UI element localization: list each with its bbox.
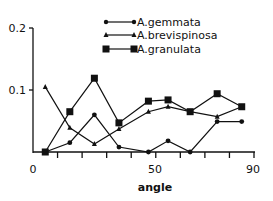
circle-marker-icon (104, 20, 108, 24)
circle-marker-icon (215, 119, 220, 124)
legend-label: A.gemmata (137, 16, 201, 29)
square-marker-icon (115, 119, 122, 126)
x-tick-label-90: 90 (246, 163, 260, 176)
circle-marker-icon (67, 140, 72, 145)
square-marker-icon (238, 103, 245, 110)
y-axis (29, 28, 33, 153)
square-marker-icon (91, 75, 98, 82)
x-tick-label-50: 50 (148, 163, 162, 176)
circle-marker-icon (188, 150, 193, 155)
x-tick-label-0: 0 (30, 163, 37, 176)
series-layer (42, 75, 245, 156)
triangle-marker-icon (166, 104, 171, 109)
legend-item-gemmata: A.gemmata (104, 16, 201, 29)
x-axis (33, 152, 255, 158)
square-marker-icon (66, 108, 73, 115)
series-a-gemmata (43, 112, 244, 154)
square-marker-icon (165, 96, 172, 103)
y-tick-label-0.1: 0.1 (9, 84, 27, 97)
square-marker-icon (145, 98, 152, 105)
circle-marker-icon (146, 150, 151, 155)
square-marker-icon (103, 46, 110, 53)
legend-item-brevispinosa: A.brevispinosa (104, 29, 218, 42)
legend: A.gemmata A.brevispinosa A.granulata (103, 16, 218, 56)
circle-marker-icon (132, 20, 136, 24)
square-marker-icon (42, 149, 49, 156)
x-axis-label: angle (138, 181, 172, 194)
line-chart: 0.2 0.1 0 50 90 angle A.gemmata A.brevis… (0, 0, 273, 201)
chart-svg: 0.2 0.1 0 50 90 angle A.gemmata A.brevis… (0, 0, 273, 201)
circle-marker-icon (117, 145, 122, 150)
legend-item-granulata: A.granulata (103, 43, 201, 56)
circle-marker-icon (166, 138, 171, 143)
legend-label: A.brevispinosa (137, 29, 217, 42)
circle-marker-icon (92, 112, 97, 117)
circle-marker-icon (239, 119, 244, 124)
legend-label: A.granulata (137, 43, 201, 56)
square-marker-icon (187, 108, 194, 115)
triangle-marker-icon (43, 84, 48, 89)
square-marker-icon (214, 90, 221, 97)
y-tick-label-0.2: 0.2 (9, 22, 27, 35)
